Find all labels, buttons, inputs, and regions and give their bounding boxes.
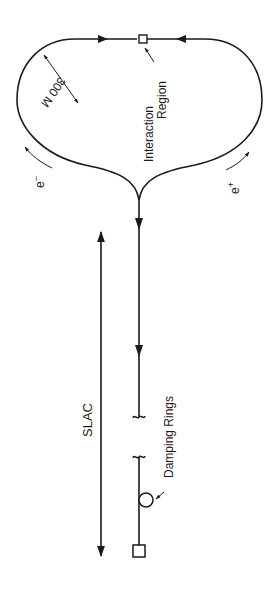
damping-ring-pointer: [156, 492, 164, 499]
svg-text:e−: e−: [31, 176, 47, 188]
slc-diagram: Interaction Region 300 M e− e+ SLAC Damp…: [0, 0, 277, 590]
arrow-down-icon: [135, 218, 143, 230]
positron-charge: +: [226, 182, 236, 187]
damping-ring: [139, 493, 153, 507]
arrow-left-icon: [176, 35, 186, 43]
arrow-right-icon: [98, 35, 108, 43]
arrow-down-icon: [135, 345, 143, 357]
linac-label: SLAC: [80, 403, 95, 437]
damping-rings-label: Damping Rings: [162, 396, 176, 478]
interaction-region-label-line1: Interaction: [142, 106, 156, 162]
interaction-region-pointer: [145, 48, 154, 62]
radius-label: 300 M: [38, 75, 69, 110]
positron-direction-arrow: [226, 152, 249, 170]
break-mark-upper: [133, 416, 145, 418]
interaction-region: [139, 35, 147, 43]
source: [133, 545, 145, 557]
interaction-region-label-line2: Region: [155, 81, 169, 119]
collider-arc-electron: [17, 39, 139, 200]
svg-text:e+: e+: [226, 182, 242, 194]
electron-charge: −: [31, 176, 41, 181]
